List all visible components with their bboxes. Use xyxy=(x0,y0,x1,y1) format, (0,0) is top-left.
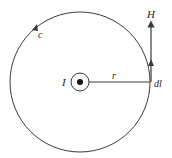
current-out-of-page-dot-icon xyxy=(77,79,83,85)
ampere-loop-diagram: H c I r dl xyxy=(0,0,172,158)
radius-label: r xyxy=(112,70,116,81)
contour-label: c xyxy=(38,29,43,40)
current-label: I xyxy=(61,76,67,88)
dl-label: dl xyxy=(154,78,162,89)
h-field-label: H xyxy=(146,8,156,20)
dl-arrow-icon xyxy=(148,59,154,66)
